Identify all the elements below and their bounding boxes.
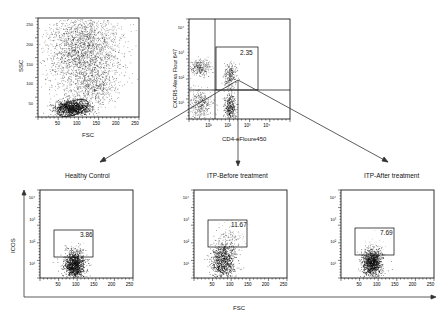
svg-text:250: 250 [126, 282, 134, 287]
svg-text:100: 100 [72, 282, 80, 287]
svg-text:200: 200 [26, 42, 33, 47]
svg-text:10⁴: 10⁴ [178, 25, 184, 30]
svg-text:10³: 10³ [330, 217, 336, 222]
svg-text:200: 200 [112, 121, 120, 126]
svg-text:100: 100 [226, 282, 234, 287]
panel-cd4-cxcr5: 10¹10²10³10⁴ 10¹10²10³10⁴ [178, 19, 290, 128]
svg-text:10⁴: 10⁴ [330, 195, 336, 200]
svg-text:10³: 10³ [244, 123, 251, 128]
title-itp-before: ITP-Before treatment [207, 172, 268, 179]
svg-text:10¹: 10¹ [330, 261, 336, 266]
svg-text:250: 250 [131, 121, 139, 126]
svg-text:10⁴: 10⁴ [29, 195, 35, 200]
svg-text:50: 50 [55, 121, 61, 126]
svg-text:50: 50 [209, 282, 215, 287]
y-axis-ticks: 50100150200250 [26, 18, 38, 117]
svg-text:200: 200 [108, 282, 116, 287]
svg-text:10²: 10² [183, 239, 189, 244]
svg-text:100: 100 [26, 81, 33, 86]
shared-ylabel: ICOS [10, 238, 16, 253]
svg-text:10²: 10² [225, 123, 232, 128]
y-axis-ticks: 10¹10²10³10⁴ [178, 19, 189, 119]
flow-cytometry-figure: 50100150200250 50100150200250 10¹10²10³1… [0, 0, 448, 324]
x-axis-ticks: 50100150200250 [38, 117, 139, 126]
svg-text:150: 150 [391, 282, 399, 287]
p1-xlabel: FSC [82, 132, 94, 138]
svg-text:10¹: 10¹ [183, 261, 189, 266]
shared-xlabel: FSC [233, 305, 245, 311]
svg-text:50: 50 [29, 101, 34, 106]
svg-text:10²: 10² [178, 75, 184, 80]
p2-ylabel: CXCR5-Alexa Flour 647 [172, 49, 178, 108]
p2-xlabel: CD4-eFloure450 [222, 136, 266, 142]
svg-text:150: 150 [90, 282, 98, 287]
panel-itp-before: 5010015020025010¹10²10³10⁴ [183, 190, 288, 287]
title-itp-after: ITP-After treatment [364, 172, 419, 179]
svg-text:200: 200 [409, 282, 417, 287]
svg-text:150: 150 [26, 62, 33, 67]
p2-gate-value: 2.35 [240, 49, 253, 56]
svg-text:10³: 10³ [178, 50, 184, 55]
svg-text:10²: 10² [29, 239, 35, 244]
title-healthy-control: Healthy Control [65, 172, 110, 179]
svg-text:50: 50 [55, 282, 61, 287]
svg-text:250: 250 [427, 282, 435, 287]
x-axis-ticks: 10¹10²10³10⁴ [189, 119, 290, 128]
svg-text:100: 100 [373, 282, 381, 287]
svg-text:10¹: 10¹ [178, 100, 184, 105]
svg-text:10⁴: 10⁴ [263, 123, 270, 128]
svg-text:150: 150 [93, 121, 101, 126]
svg-text:10³: 10³ [183, 217, 189, 222]
svg-text:10¹: 10¹ [205, 123, 212, 128]
svg-text:150: 150 [244, 282, 252, 287]
svg-text:10⁴: 10⁴ [183, 195, 189, 200]
gate-value-itp-after: 7.69 [380, 229, 393, 236]
panel-healthy-control: 5010015020025010¹10²10³10⁴ [29, 190, 134, 287]
svg-text:10¹: 10¹ [29, 261, 35, 266]
svg-text:250: 250 [280, 282, 288, 287]
p1-ylabel: SSC [18, 60, 24, 72]
gate-value-itp-before: 11.67 [231, 221, 247, 228]
svg-text:200: 200 [262, 282, 270, 287]
panel-itp-after: 5010015020025010¹10²10³10⁴ [330, 190, 435, 287]
svg-text:50: 50 [356, 282, 362, 287]
svg-text:100: 100 [73, 121, 81, 126]
gate-value-healthy: 3.86 [80, 231, 93, 238]
svg-text:250: 250 [26, 22, 33, 27]
svg-text:10²: 10² [330, 239, 336, 244]
svg-text:10³: 10³ [29, 217, 35, 222]
panel-fsc-ssc: 50100150200250 50100150200250 [26, 18, 139, 126]
